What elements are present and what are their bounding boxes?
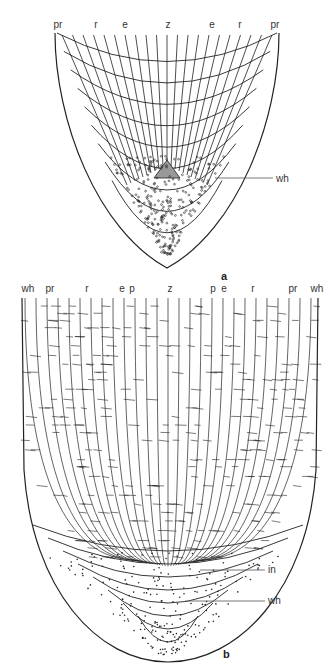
- panel-b-statolith: [223, 562, 225, 564]
- panel-a-statolith: [147, 222, 149, 224]
- panel-b-cross-wall: [49, 346, 60, 347]
- label-b-pr-right: pr: [289, 284, 298, 294]
- panel-a-statolith: [171, 228, 173, 230]
- panel-b-statolith: [227, 603, 229, 605]
- panel-a-statolith: [128, 189, 130, 191]
- panel-b-statolith: [179, 596, 181, 598]
- panel-b-statolith: [181, 641, 183, 643]
- panel-b-statolith: [163, 653, 165, 655]
- panel-a-statolith: [157, 186, 159, 188]
- panel-a-statolith: [196, 156, 198, 158]
- panel-b-statolith: [176, 556, 178, 558]
- panel-b-cross-wall: [203, 440, 212, 441]
- panel-b-statolith: [168, 573, 170, 575]
- panel-a-statolith: [188, 176, 190, 178]
- panel-b-statolith: [143, 592, 145, 594]
- panel-a-statolith: [178, 199, 180, 201]
- panel-b-statolith: [157, 639, 159, 641]
- panel-b-statolith: [170, 615, 172, 617]
- panel-b-statolith: [113, 613, 115, 615]
- panel-b-statolith: [82, 573, 84, 575]
- panel-a-statolith: [164, 243, 166, 245]
- panel-b-cross-wall: [140, 346, 151, 347]
- panel-a-statolith: [209, 185, 211, 187]
- panel-b-statolith: [130, 605, 132, 607]
- panel-b-cross-wall: [97, 399, 108, 400]
- panel-b-statolith: [143, 620, 145, 622]
- panel-a-statolith: [194, 171, 196, 173]
- panel-a-statolith: [185, 192, 187, 194]
- panel-b-statolith: [209, 573, 211, 575]
- panel-b-statolith: [126, 583, 128, 585]
- panel-a-statolith: [182, 206, 184, 208]
- label-b-pr-left: pr: [46, 284, 55, 294]
- panel-b-cross-wall: [60, 320, 71, 321]
- panel-a-statolith: [147, 179, 149, 181]
- panel-a-statolith: [163, 245, 165, 247]
- panel-a-statolith: [160, 246, 162, 248]
- panel-b-statolith: [196, 591, 198, 593]
- panel-a-statolith: [161, 204, 163, 206]
- panel-b-statolith: [161, 636, 163, 638]
- panel-b-statolith: [133, 566, 135, 568]
- panel-b-cross-wall: [281, 495, 287, 496]
- label-b-z: z: [168, 284, 173, 294]
- panel-b-statolith: [182, 634, 184, 636]
- panel-a-statolith: [153, 159, 155, 161]
- panel-b-cross-wall: [158, 440, 169, 441]
- panel-a-statolith: [135, 194, 137, 196]
- panel-b-cross-wall: [30, 355, 41, 356]
- panel-b-statolith: [179, 618, 181, 620]
- panel-b-cross-wall: [160, 320, 169, 321]
- panel-b-statolith: [102, 581, 104, 583]
- panel-b-statolith: [160, 652, 162, 654]
- panel-a-statolith: [150, 156, 152, 158]
- panel-b-cross-wall: [166, 531, 177, 532]
- panel-a-statolith: [147, 195, 149, 197]
- panel-b-statolith: [152, 630, 154, 632]
- panel-b-cross-wall: [97, 379, 108, 380]
- panel-a-statolith: [161, 251, 163, 253]
- panel-a-statolith: [178, 158, 180, 160]
- panel-a-statolith: [201, 190, 203, 192]
- panel-b-statolith: [213, 620, 215, 622]
- label-a-wh: wh: [276, 174, 289, 184]
- panel-b-cross-wall: [225, 337, 232, 338]
- panel-b-cross-wall: [88, 548, 98, 549]
- panel-b-cross-wall: [247, 379, 254, 380]
- panel-b-cross-wall: [88, 379, 95, 380]
- panel-a-statolith: [172, 224, 174, 226]
- panel-a-statolith: [174, 227, 176, 229]
- panel-b-statolith: [189, 575, 191, 577]
- panel-b-cross-wall: [55, 328, 62, 329]
- panel-b-cross-wall: [263, 379, 272, 380]
- label-b-in: in: [268, 565, 276, 575]
- panel-b-statolith: [74, 574, 76, 576]
- panel-b-statolith: [127, 618, 129, 620]
- panel-b-statolith: [194, 591, 196, 593]
- label-a-pr-right: pr: [271, 20, 280, 30]
- panel-b-cross-wall: [293, 379, 304, 380]
- panel-a-statolith: [167, 196, 169, 198]
- panel-a-statolith: [174, 183, 176, 185]
- panel-b-statolith: [180, 634, 182, 636]
- panel-b-statolith: [191, 636, 193, 638]
- panel-b-cell-file: [198, 298, 300, 561]
- panel-b-cross-wall: [191, 440, 198, 441]
- panel-a-statolith: [145, 218, 147, 220]
- panel-b-cross-wall: [297, 416, 308, 417]
- panel-b-statolith: [145, 637, 147, 639]
- panel-b-cross-wall: [310, 467, 319, 468]
- panel-b-statolith: [206, 578, 208, 580]
- label-a-z: z: [166, 20, 171, 30]
- panel-b-cross-wall: [21, 440, 30, 441]
- panel-b-statolith: [162, 585, 164, 587]
- panel-b-cross-wall: [145, 495, 152, 496]
- panel-b-statolith: [217, 594, 219, 596]
- panel-b-cross-wall: [293, 486, 301, 487]
- panel-b-statolith: [173, 634, 175, 636]
- panel-b-cross-wall: [184, 328, 193, 329]
- panel-a-statolith: [172, 241, 174, 243]
- panel-b-statolith: [257, 564, 259, 566]
- panel-b-cross-wall: [68, 531, 75, 532]
